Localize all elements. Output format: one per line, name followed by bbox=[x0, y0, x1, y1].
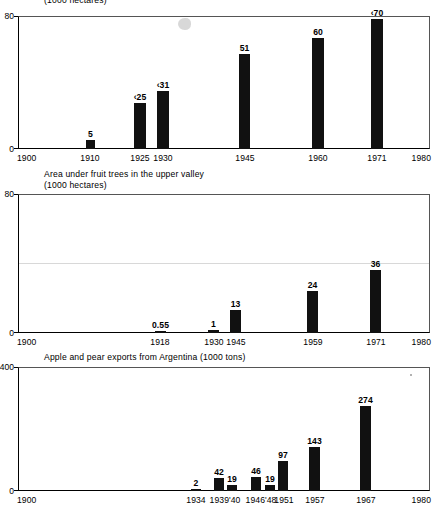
panel-2-caption-line2: (1000 hectares) bbox=[44, 180, 107, 191]
bar bbox=[312, 38, 324, 150]
bar bbox=[208, 330, 219, 333]
bar-value-label: 274 bbox=[346, 396, 386, 405]
bar bbox=[239, 54, 250, 149]
panel-3-caption-line1: Apple and pear exports from Argentina (1… bbox=[44, 352, 245, 363]
panel-2-ytick-mark-min bbox=[14, 332, 18, 333]
panel-2-ytick-min: 0 bbox=[0, 329, 14, 338]
x-axis-tick-label: 1960 bbox=[293, 154, 343, 163]
bar bbox=[265, 485, 275, 491]
bar-value-label: ‹31 bbox=[143, 81, 183, 90]
bar bbox=[278, 461, 288, 491]
bar-value-label: ‹25 bbox=[120, 93, 160, 102]
bar-value-label: 0.55 bbox=[141, 321, 181, 330]
bar-value-label: 36 bbox=[356, 260, 396, 269]
x-axis-tick-label: 1959 bbox=[288, 338, 338, 347]
panel-3-ytick-mark-min bbox=[14, 490, 18, 491]
bar-value-label: 13 bbox=[216, 300, 256, 309]
bar bbox=[155, 331, 166, 333]
x-axis-tick-label: 1900 bbox=[17, 496, 36, 505]
bar bbox=[191, 489, 201, 491]
bar bbox=[371, 19, 383, 149]
bar bbox=[134, 103, 146, 149]
x-axis-tick-label: 1980 bbox=[390, 496, 431, 505]
bar-value-label: 19 bbox=[212, 475, 252, 484]
chart-panel-1: (1000 hectares) 80 0 5‹25‹315160‹70 1900… bbox=[0, 0, 441, 168]
panel-3-ytick-mark-max bbox=[14, 367, 18, 368]
bar bbox=[86, 140, 95, 149]
x-axis-tick-label: 1967 bbox=[341, 496, 391, 505]
bar bbox=[157, 91, 169, 149]
x-axis-tick-label: 1945 bbox=[220, 154, 270, 163]
x-axis-tick-label: 1900 bbox=[17, 338, 36, 347]
x-axis-tick-label: 1910 bbox=[65, 154, 115, 163]
panel-3-ytick-max: 400 bbox=[0, 363, 14, 372]
x-axis-tick-label: 1900 bbox=[17, 154, 36, 163]
bar-value-label: 143 bbox=[295, 437, 335, 446]
bar-value-label: ‹70 bbox=[357, 9, 397, 18]
scan-speck-artifact bbox=[410, 374, 412, 376]
bar bbox=[309, 447, 320, 491]
x-axis-tick-label: 1957 bbox=[290, 496, 340, 505]
chart-panel-2: Area under fruit trees in the upper vall… bbox=[0, 168, 441, 352]
bar-value-label: 2 bbox=[176, 479, 216, 488]
chart-panel-3: Apple and pear exports from Argentina (1… bbox=[0, 352, 441, 508]
x-axis-tick-label: 1980 bbox=[390, 154, 431, 163]
bar-value-label: 1 bbox=[194, 320, 234, 329]
panel-3-ytick-min: 0 bbox=[0, 487, 14, 496]
bar bbox=[360, 406, 371, 491]
bar bbox=[370, 270, 381, 333]
bar bbox=[230, 310, 241, 333]
panel-2-ytick-mark-max bbox=[14, 194, 18, 195]
bar-value-label: 5 bbox=[71, 130, 111, 139]
bar bbox=[227, 485, 237, 491]
bar-value-label: 60 bbox=[298, 28, 338, 37]
bar-value-label: 24 bbox=[293, 281, 333, 290]
panel-2-caption-line1: Area under fruit trees in the upper vall… bbox=[44, 169, 204, 180]
x-axis-tick-label: 1918 bbox=[135, 338, 185, 347]
x-axis-tick-label: 1980 bbox=[390, 338, 431, 347]
panel-2-ytick-max: 80 bbox=[0, 190, 14, 199]
bar bbox=[307, 291, 318, 333]
x-axis-tick-label: 1930 bbox=[138, 154, 188, 163]
x-axis-tick-label: 1945 bbox=[211, 338, 261, 347]
bar-value-label: 97 bbox=[263, 451, 303, 460]
bar-value-label: 51 bbox=[225, 44, 265, 53]
